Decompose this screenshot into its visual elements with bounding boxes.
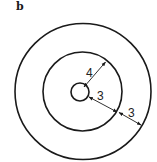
inner-circle xyxy=(71,83,89,101)
concentric-circles-diagram: 4 3 3 xyxy=(0,0,157,162)
dimension-label-3-outer: 3 xyxy=(128,106,135,120)
middle-circle xyxy=(43,52,122,131)
dimension-label-3-inner: 3 xyxy=(97,89,104,103)
dimension-label-4: 4 xyxy=(86,66,93,80)
outer-circle xyxy=(15,24,151,160)
